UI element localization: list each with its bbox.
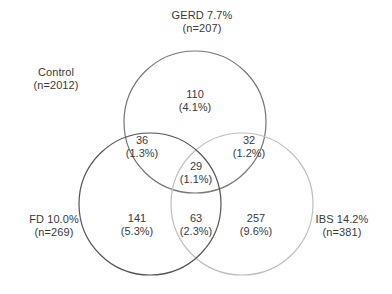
region-percent-fd-ibs: (2.3%) (166, 225, 226, 238)
region-count-all-three: 29 (190, 160, 202, 172)
venn-circles-canvas (0, 0, 392, 294)
set-label-gerd: GERD 7.7% (n=207) (140, 9, 264, 36)
region-value-gerd-fd: 36 (1.3%) (112, 134, 172, 160)
region-percent-gerd-ibs: (1.2%) (219, 147, 279, 160)
region-count-gerd-only: 110 (186, 88, 204, 100)
set-label-fd-line1: FD 10.0% (29, 213, 79, 225)
region-value-all-three: 29 (1.1%) (166, 160, 226, 186)
region-value-gerd-ibs: 32 (1.2%) (219, 134, 279, 160)
region-count-fd-ibs: 63 (190, 212, 202, 224)
set-label-ibs: IBS 14.2% (n=381) (292, 213, 392, 240)
venn-diagram-figure: Control (n=2012) GERD 7.7% (n=207) FD 10… (0, 0, 392, 294)
region-value-fd-only: 141 (5.3%) (106, 212, 168, 238)
set-label-gerd-line2: (n=207) (140, 22, 264, 35)
region-percent-fd-only: (5.3%) (106, 225, 168, 238)
set-label-ibs-line1: IBS 14.2% (316, 213, 369, 225)
set-label-ibs-line2: (n=381) (292, 226, 392, 239)
set-label-control-line2: (n=2012) (8, 79, 104, 92)
region-percent-all-three: (1.1%) (166, 173, 226, 186)
region-percent-ibs-only: (9.6%) (225, 225, 287, 238)
set-label-control: Control (n=2012) (8, 66, 104, 93)
region-percent-gerd-fd: (1.3%) (112, 147, 172, 160)
set-label-gerd-line1: GERD 7.7% (172, 9, 233, 21)
region-count-gerd-ibs: 32 (243, 134, 255, 146)
region-count-gerd-fd: 36 (136, 134, 148, 146)
set-label-control-line1: Control (38, 66, 74, 78)
region-percent-gerd-only: (4.1%) (165, 101, 225, 114)
region-count-ibs-only: 257 (247, 212, 265, 224)
set-label-fd: FD 10.0% (n=269) (2, 213, 106, 240)
region-value-ibs-only: 257 (9.6%) (225, 212, 287, 238)
set-label-fd-line2: (n=269) (2, 226, 106, 239)
region-value-gerd-only: 110 (4.1%) (165, 88, 225, 114)
region-count-fd-only: 141 (128, 212, 146, 224)
region-value-fd-ibs: 63 (2.3%) (166, 212, 226, 238)
